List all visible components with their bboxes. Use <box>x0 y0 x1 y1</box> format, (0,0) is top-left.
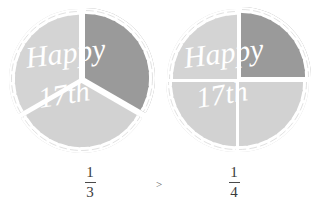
fraction-one-third: 1 3 <box>70 164 110 201</box>
fraction-bar <box>229 182 240 183</box>
fraction-one-fourth: 1 4 <box>214 164 254 201</box>
cake-thirds: Happy 17th <box>4 4 154 154</box>
fraction-bar <box>85 182 96 183</box>
numerator: 1 <box>214 164 254 181</box>
numerator: 1 <box>70 164 110 181</box>
fraction-comparison-figure: Happy 17th <box>0 0 316 214</box>
cake-quarters: Happy 17th <box>162 4 312 154</box>
cake-figures-row: Happy 17th <box>0 0 316 155</box>
denominator: 4 <box>214 184 254 201</box>
comparison-operator: > <box>148 178 170 190</box>
fraction-comparison-row: 1 3 > 1 4 <box>0 158 316 214</box>
denominator: 3 <box>70 184 110 201</box>
